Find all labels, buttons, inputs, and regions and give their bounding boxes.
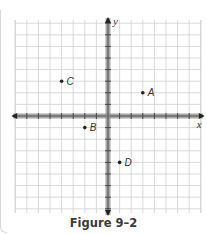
- point-marker: [83, 126, 87, 130]
- point-c: C: [60, 76, 75, 87]
- figure-caption: Figure 9–2: [0, 216, 207, 230]
- y-axis-label: y: [112, 15, 118, 27]
- x-axis-label: x: [196, 118, 202, 130]
- point-marker: [60, 79, 64, 83]
- point-label: C: [67, 76, 75, 87]
- coordinate-plane: xy ABCD: [0, 0, 207, 234]
- point-marker: [118, 161, 122, 165]
- point-marker: [141, 91, 145, 95]
- point-label: A: [147, 87, 155, 98]
- point-label: B: [90, 122, 97, 133]
- point-label: D: [125, 157, 132, 168]
